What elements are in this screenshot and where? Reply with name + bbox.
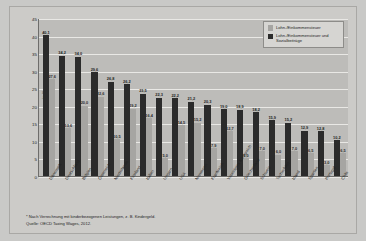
x-axis-label-cell: Deutschland [56, 178, 72, 212]
bar-value-label: 16,4 [145, 113, 153, 118]
footnote-note: * Nach Verrechnung mit kinderbezogenen L… [26, 214, 326, 221]
y-axis-tick-label: 30 [32, 69, 37, 74]
bar-value-label: 7,0 [259, 146, 264, 151]
bar-value-label: 18,9 [236, 104, 244, 109]
x-axis-label-cell: Frankreich [202, 178, 218, 212]
bar-value-label: 19,2 [129, 103, 137, 108]
bar-group: 40,127,6 [41, 19, 57, 176]
legend-label-tax: Lohn-/Einkommensteuer [276, 25, 321, 30]
x-axis-label-cell: Italien [137, 178, 153, 212]
y-axis-tick-label: 20 [32, 104, 37, 109]
bar-value-label: 6,5 [308, 148, 313, 153]
x-axis-label-cell: Irland [283, 178, 299, 212]
footnote-note-text: Nach Verrechnung mit kinderbezogenen Lei… [29, 214, 156, 219]
x-axis-label-cell: Tschechien [267, 178, 283, 212]
bar-value-label: 12,7 [226, 126, 234, 131]
y-axis-tick-label: 5 [35, 157, 37, 162]
legend-label-tax-social: Lohn-/Einkommensteuer und Sozialbeiträge [276, 33, 338, 43]
bar-value-label: 15,2 [194, 117, 202, 122]
bar-tax-only: 20,0 [81, 106, 87, 176]
bar-value-label: 27,6 [48, 74, 56, 79]
x-axis-label-cell: Portugal [315, 178, 331, 212]
x-axis-labels: DänemarkDeutschlandBelgienÖsterreichNied… [38, 178, 348, 212]
bar-value-label: 23,5 [139, 88, 147, 93]
x-axis-label-cell: Finnland [121, 178, 137, 212]
bar-value-label: 29,6 [91, 67, 99, 72]
x-axis-label-cell: Schweiz [251, 178, 267, 212]
y-axis-tick-label: 40 [32, 34, 37, 39]
bar-value-label: 5,0 [163, 153, 168, 158]
bar-value-label: 22,6 [97, 91, 105, 96]
legend-item-tax: Lohn-/Einkommensteuer [268, 25, 339, 31]
chart-legend: Lohn-/Einkommensteuer Lohn-/Einkommenste… [263, 21, 345, 48]
bar-value-label: 18,2 [252, 107, 260, 112]
legend-swatch-light-icon [268, 25, 274, 31]
x-axis-label-cell: USA [170, 178, 186, 212]
x-axis-label-cell: Chile [332, 178, 348, 212]
bar-value-label: 3,0 [324, 160, 329, 165]
bar-value-label: 20,0 [81, 100, 89, 105]
x-axis-label-cell: Belgien [72, 178, 88, 212]
bar-group: 29,622,6 [89, 19, 105, 176]
x-axis-label-cell: Dänemark [40, 178, 56, 212]
bar-group: 26,810,5 [106, 19, 122, 176]
bar-value-label: 26,8 [107, 76, 115, 81]
y-axis-tick-label: 0 [35, 175, 37, 180]
y-axis-tick-label: 45 [32, 17, 37, 22]
bar-value-label: 22,2 [171, 93, 179, 98]
bar-value-label: 12,8 [317, 126, 325, 131]
bar-group: 21,215,2 [186, 19, 202, 176]
bar-tax-only: 22,6 [98, 97, 104, 176]
footnote-marker: * [26, 214, 28, 219]
bar-value-label: 6,5 [340, 148, 345, 153]
y-axis-tick-label: 35 [32, 52, 37, 57]
x-axis-label-cell: Österreich [89, 178, 105, 212]
bar-value-label: 21,2 [188, 96, 196, 101]
bar-value-label: 40,1 [42, 30, 50, 35]
bar-value-label: 10,2 [333, 135, 341, 140]
bar-value-label: 7,0 [292, 146, 297, 151]
legend-item-tax-social: Lohn-/Einkommensteuer und Sozialbeiträge [268, 33, 339, 43]
bar-value-label: 12,9 [301, 125, 309, 130]
bar-value-label: 15,2 [285, 117, 293, 122]
bar-tax-only: 27,6 [49, 79, 55, 176]
bar-tax-only: 14,5 [178, 125, 184, 176]
bar-value-label: 7,9 [211, 143, 216, 148]
bar-value-label: 22,3 [155, 92, 163, 97]
bar-value-label: 20,3 [204, 99, 212, 104]
bar-value-label: 15,9 [268, 115, 276, 120]
bar-value-label: 13,6 [65, 123, 73, 128]
x-axis-label-cell: Griechenland [234, 178, 250, 212]
bar-value-label: 10,5 [113, 134, 121, 139]
bar-value-label: 26,2 [123, 79, 131, 84]
y-axis-tick-label: 25 [32, 87, 37, 92]
chart-figure: in % 051015202530354045 40,127,634,213,6… [0, 0, 366, 241]
bar-group: 22,35,0 [154, 19, 170, 176]
bar-group: 22,214,5 [170, 19, 186, 176]
bar-group: 19,012,7 [219, 19, 235, 176]
x-axis-label-cell: Ungarn [153, 178, 169, 212]
y-axis-tick-label: 10 [32, 139, 37, 144]
bar-tax-only: 19,2 [130, 109, 136, 176]
bar-group: 23,516,4 [138, 19, 154, 176]
bar-group: 20,37,9 [203, 19, 219, 176]
bar-value-label: 19,0 [220, 104, 228, 109]
x-axis-label-cell: Norwegen [186, 178, 202, 212]
bar-group: 34,213,6 [57, 19, 73, 176]
legend-swatch-dark-icon [268, 34, 274, 40]
bar-group: 26,219,2 [122, 19, 138, 176]
bar-tax-only: 16,4 [146, 118, 152, 176]
bar-value-label: 14,5 [178, 120, 186, 125]
bar-value-label: 34,0 [75, 51, 83, 56]
bar-value-label: 6,0 [276, 149, 281, 154]
footnote-source: Quelle: OECD Taxing Wages, 2012. [26, 221, 326, 227]
x-axis-label-cell: Spanien [299, 178, 315, 212]
bar-value-label: 34,2 [58, 50, 66, 55]
x-axis-label-cell: Vereinigtes Königreich [218, 178, 234, 212]
x-axis-label-cell: Niederlande [105, 178, 121, 212]
y-axis-tick-label: 15 [32, 122, 37, 127]
footnote-block: * Nach Verrechnung mit kinderbezogenen L… [26, 214, 326, 227]
bar-group: 34,020,0 [73, 19, 89, 176]
chart-plate: in % 051015202530354045 40,127,634,213,6… [9, 6, 357, 234]
